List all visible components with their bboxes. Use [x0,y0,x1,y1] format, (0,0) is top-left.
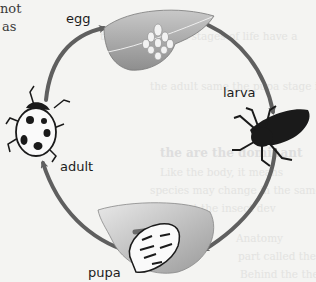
adult-ladybug-icon [6,86,70,162]
larva-icon [232,106,310,166]
stage-label-egg: egg [66,11,91,26]
arrow-adult-to-egg [46,28,104,100]
stage-label-pupa: pupa [88,265,121,280]
life-cycle-diagram [0,0,316,282]
egg-leaf-icon [104,10,214,70]
arrow-larva-to-pupa [204,150,275,250]
stage-label-adult: adult [60,159,93,174]
stage-label-larva: larva [223,85,256,100]
